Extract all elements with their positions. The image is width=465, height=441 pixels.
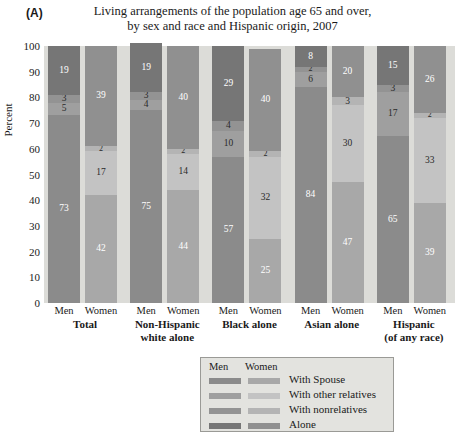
bar-segment-value: 4 (144, 100, 149, 110)
chart-title-line-2: by sex and race and Hispanic origin, 200… (55, 19, 410, 34)
bar-segment-value: 3 (144, 92, 149, 100)
bar-group: 7353194217239 (44, 46, 126, 303)
legend-label: Alone (289, 418, 316, 430)
bar-segment[interactable]: 73 (48, 115, 80, 303)
bar-segment-value: 25 (261, 266, 271, 276)
bar-women[interactable]: 3933226 (414, 46, 446, 303)
bar-segment[interactable]: 3 (332, 97, 364, 105)
bar-segment-value: 30 (343, 139, 353, 149)
y-tick-label: 90 (6, 67, 40, 77)
bar-segment-value: 32 (261, 193, 271, 203)
x-group-label-line: (of any race) (359, 331, 465, 344)
bar-segment-value: 39 (96, 91, 106, 101)
bar-segment[interactable]: 40 (249, 49, 281, 152)
bar-segment-value: 6 (308, 75, 313, 85)
bar-segment[interactable]: 65 (377, 136, 409, 303)
bar-segment-value: 26 (425, 75, 435, 85)
x-label-men: Men (373, 305, 413, 316)
y-tick-label: 70 (6, 118, 40, 128)
bar-segment[interactable]: 2 (167, 149, 199, 154)
bar-men[interactable]: 5710429 (212, 46, 244, 303)
bar-segment-value: 40 (261, 95, 271, 105)
y-tick-label: 0 (6, 298, 40, 308)
bar-segment[interactable]: 5 (48, 103, 80, 116)
bar-women[interactable]: 2532240 (249, 46, 281, 303)
bar-segment[interactable]: 26 (414, 46, 446, 113)
x-label-men: Men (44, 305, 84, 316)
x-label-men: Men (208, 305, 248, 316)
bar-segment-value: 29 (224, 79, 234, 89)
x-label-women: Women (410, 305, 450, 316)
bar-men[interactable]: 754319 (130, 46, 162, 303)
x-label-women: Women (328, 305, 368, 316)
bar-segment[interactable]: 47 (332, 182, 364, 303)
bar-segment[interactable]: 2 (249, 151, 281, 156)
x-group-label-line: white alone (112, 331, 222, 344)
bar-segment[interactable]: 40 (167, 46, 199, 149)
legend-swatch-women (248, 408, 280, 414)
legend-header-men: Men (209, 361, 228, 372)
y-tick-label: 40 (6, 195, 40, 205)
bar-segment[interactable]: 19 (130, 43, 162, 92)
bar-men[interactable]: 84628 (295, 46, 327, 303)
bar-segment[interactable]: 57 (212, 157, 244, 303)
bar-segment-value: 47 (343, 238, 353, 248)
bar-segment[interactable]: 10 (212, 131, 244, 157)
bar-segment-value: 73 (59, 204, 69, 214)
bar-segment-value: 14 (178, 167, 188, 177)
bar-segment[interactable]: 33 (414, 118, 446, 203)
bar-segment-value: 75 (141, 202, 151, 212)
chart-legend: Men Women With SpouseWith other relative… (200, 357, 394, 432)
bar-segment[interactable]: 14 (167, 154, 199, 190)
bar-segment[interactable]: 44 (167, 190, 199, 303)
legend-label: With Spouse (289, 373, 345, 385)
bar-men[interactable]: 6517315 (377, 46, 409, 303)
bar-women[interactable]: 4414240 (167, 46, 199, 303)
bar-segment[interactable]: 15 (377, 46, 409, 85)
bar-segment[interactable]: 3 (48, 95, 80, 103)
bar-segment-value: 84 (306, 190, 316, 200)
bar-segment[interactable]: 30 (332, 105, 364, 182)
x-label-men: Men (126, 305, 166, 316)
bar-segment[interactable]: 6 (295, 72, 327, 87)
bar-segment-value: 65 (388, 215, 398, 225)
bar-segment[interactable]: 19 (48, 46, 80, 95)
bar-segment[interactable]: 20 (332, 46, 364, 97)
bar-segment-value: 3 (62, 95, 67, 103)
legend-swatch-women (248, 393, 280, 399)
bar-segment[interactable]: 39 (85, 46, 117, 146)
bar-segment[interactable]: 2 (85, 146, 117, 151)
bar-segment[interactable]: 39 (414, 203, 446, 303)
bar-segment[interactable]: 2 (295, 67, 327, 72)
bar-segment[interactable]: 17 (377, 92, 409, 136)
bar-segment-value: 2 (309, 67, 313, 72)
bar-segment[interactable]: 8 (295, 46, 327, 67)
legend-row[interactable]: Alone (201, 419, 393, 435)
bar-segment[interactable]: 84 (295, 87, 327, 303)
bar-men[interactable]: 735319 (48, 46, 80, 303)
bar-segment-value: 39 (425, 248, 435, 258)
legend-swatch-women (248, 378, 280, 384)
bar-segment[interactable]: 25 (249, 239, 281, 303)
legend-label: With nonrelatives (289, 403, 367, 415)
legend-swatch-men (209, 423, 241, 429)
bar-segment[interactable]: 3 (130, 92, 162, 100)
bar-segment[interactable]: 29 (212, 46, 244, 121)
bar-segment-value: 15 (388, 61, 398, 71)
figure-panel: (A) Living arrangements of the populatio… (0, 0, 465, 441)
bar-segment[interactable]: 32 (249, 157, 281, 239)
y-tick-label: 10 (6, 272, 40, 282)
bar-segment[interactable]: 3 (377, 85, 409, 93)
y-tick-label: 50 (6, 170, 40, 180)
bar-segment[interactable]: 42 (85, 195, 117, 303)
bar-segment[interactable]: 4 (212, 121, 244, 131)
bar-women[interactable]: 4730320 (332, 46, 364, 303)
bar-segment[interactable]: 75 (130, 110, 162, 303)
bar-segment-value: 17 (388, 109, 398, 119)
bar-segment[interactable]: 2 (414, 113, 446, 118)
y-axis-ticks: 0102030405060708090100 (0, 46, 40, 303)
bar-segment[interactable]: 17 (85, 151, 117, 195)
bar-segment[interactable]: 4 (130, 100, 162, 110)
legend-swatch-women (248, 423, 280, 429)
bar-women[interactable]: 4217239 (85, 46, 117, 303)
